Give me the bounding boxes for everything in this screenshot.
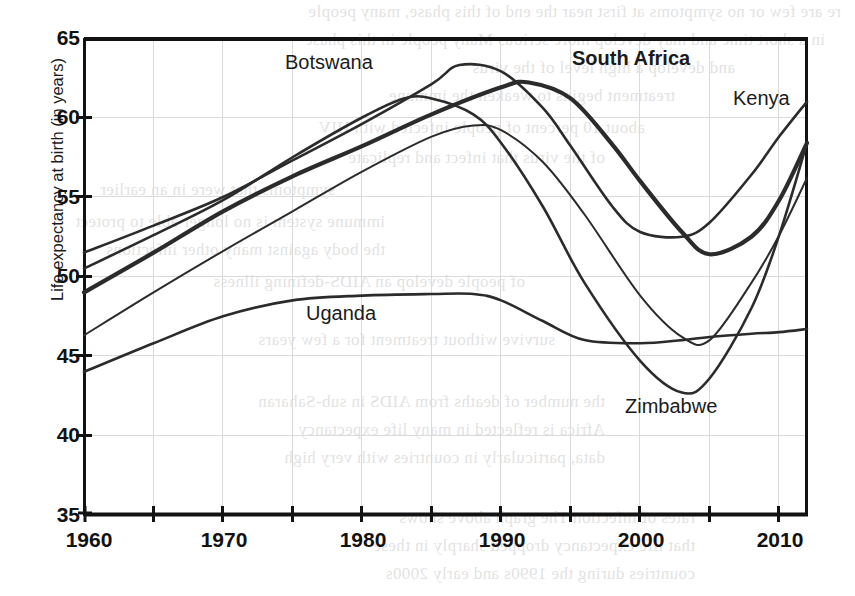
life-expectancy-line-chart: Life expectancy at birth (in years) 65 6… <box>0 0 855 596</box>
series-curve-zimbabwe <box>84 96 807 393</box>
series-curve-botswana <box>84 64 807 253</box>
plot-canvas <box>0 0 855 596</box>
series-label-zimbabwe: Zimbabwe <box>625 396 717 416</box>
series-label-kenya: Kenya <box>733 88 790 108</box>
series-curve-south-africa <box>84 82 807 293</box>
horizontal-gridlines <box>84 118 807 436</box>
series-curve-kenya <box>84 125 807 345</box>
series-label-uganda: Uganda <box>306 303 376 323</box>
series-curve-uganda <box>84 293 807 371</box>
series-label-south-africa: South Africa <box>572 48 690 68</box>
data-curves <box>84 64 807 393</box>
series-label-botswana: Botswana <box>285 52 373 72</box>
